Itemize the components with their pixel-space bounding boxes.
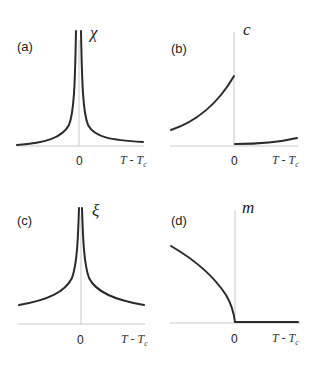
panel-c-x-label: T - Tc	[121, 332, 148, 348]
panel-a-curve-right	[81, 31, 143, 142]
panel-b-symbol: c	[243, 20, 251, 39]
panel-a-x-label: T - Tc	[120, 153, 147, 169]
panel-b-label: (b)	[171, 41, 187, 56]
panel-b-x-label: T - Tc	[272, 153, 299, 169]
panel-c-curve-right	[82, 208, 144, 305]
critical-behavior-figure: (a) χ 0 T - Tc (b) c 0 T - Tc (c) ξ 0 T …	[0, 0, 322, 369]
panel-b-zero-tick: 0	[231, 154, 238, 168]
panel-c-zero-tick: 0	[77, 333, 84, 347]
panel-d: (d) m 0 T - Tc	[170, 198, 300, 347]
panel-a: (a) χ 0 T - Tc	[16, 23, 147, 169]
panel-d-zero-tick: 0	[231, 332, 238, 346]
panel-b-curve-right	[235, 138, 297, 144]
panel-d-x-label: T - Tc	[272, 331, 299, 347]
panel-d-curve-ordered	[171, 246, 235, 322]
panel-a-label: (a)	[17, 39, 33, 54]
panel-a-zero-tick: 0	[76, 154, 83, 168]
panel-b-curve-left	[171, 76, 234, 130]
panel-d-symbol: m	[242, 198, 254, 217]
panel-c-symbol: ξ	[92, 201, 100, 220]
panel-a-symbol: χ	[88, 23, 98, 42]
panel-d-label: (d)	[171, 213, 187, 228]
panel-b: (b) c 0 T - Tc	[170, 20, 299, 169]
panel-c-label: (c)	[17, 213, 32, 228]
panel-c: (c) ξ 0 T - Tc	[17, 201, 148, 348]
